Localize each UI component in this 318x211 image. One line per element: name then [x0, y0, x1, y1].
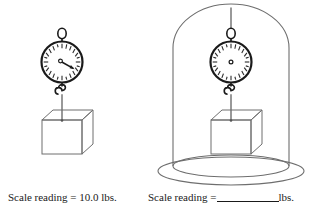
bell-jar-base-inner-ellipse [173, 155, 289, 177]
hanging-block [42, 110, 93, 154]
block-front-face [211, 120, 251, 154]
scale-needle-pivot [229, 60, 233, 64]
caption-row: Scale reading = 10.0 lbs. Scale reading … [0, 186, 318, 211]
string-attachment-point [61, 119, 64, 122]
block-top-face [42, 110, 93, 120]
right-panel-block-in-bell-jar [158, 4, 304, 185]
hanging-block [211, 110, 262, 154]
caption-left-scale-reading: Scale reading = 10.0 lbs. [8, 190, 117, 204]
string-attachment-point [230, 119, 233, 122]
answer-blank-field[interactable] [217, 190, 279, 202]
block-side-face [82, 110, 93, 154]
caption-right-units: lbs. [279, 191, 295, 203]
block-side-face [251, 110, 262, 154]
scale-hanger-ring [58, 28, 66, 38]
scale-hook [55, 85, 65, 95]
scale-hook [224, 85, 234, 95]
left-panel-block-in-air [42, 28, 94, 154]
block-top-face [211, 110, 262, 120]
block-front-face [42, 120, 82, 154]
scale-hanger-ring [227, 28, 235, 38]
caption-right-scale-reading: Scale reading =lbs. [148, 190, 294, 204]
physics-figure [0, 0, 318, 211]
caption-right-prefix: Scale reading = [148, 191, 217, 203]
